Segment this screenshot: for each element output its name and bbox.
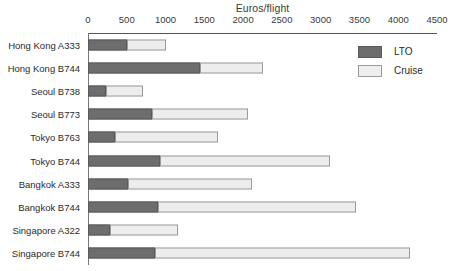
legend-swatch-lto-icon: [358, 46, 382, 58]
x-axis-tick-2500: 2500: [271, 14, 292, 25]
category-label: Seoul B773: [0, 109, 80, 120]
chart-title: Euros/flight: [88, 2, 437, 14]
x-axis-tick-3500: 3500: [349, 14, 370, 25]
legend-label-cruise: Cruise: [394, 65, 423, 76]
category-label: Tokyo B744: [0, 155, 80, 166]
category-label: Hong Kong A333: [0, 39, 80, 50]
category-label: Hong Kong B744: [0, 62, 80, 73]
category-label: Bangkok A333: [0, 178, 80, 189]
bar-segment-lto: [88, 225, 110, 236]
x-axis-tick-4500: 4500: [426, 14, 447, 25]
x-axis-tick-500: 500: [119, 14, 135, 25]
category-label: Tokyo B763: [0, 132, 80, 143]
bar-segment-cruise: [158, 202, 356, 213]
x-axis-tick-1500: 1500: [194, 14, 215, 25]
bar-segment-lto: [88, 202, 158, 213]
bar-segment-lto: [88, 86, 106, 97]
bar-segment-cruise: [155, 248, 409, 259]
category-label: Singapore A322: [0, 225, 80, 236]
bar-segment-cruise: [110, 225, 178, 236]
bar-row: [88, 248, 437, 259]
bar-row: [88, 86, 437, 97]
legend-label-lto: LTO: [394, 46, 413, 57]
chart-legend: LTO Cruise: [358, 42, 450, 80]
bar-row: [88, 132, 437, 143]
bar-row: [88, 178, 437, 189]
legend-swatch-cruise-icon: [358, 65, 382, 77]
bar-segment-lto: [88, 248, 155, 259]
bar-segment-lto: [88, 39, 127, 50]
y-axis-category-labels: Hong Kong A333Hong Kong B744Seoul B738Se…: [0, 33, 84, 265]
bar-segment-cruise: [200, 62, 263, 73]
x-axis-tick-4000: 4000: [388, 14, 409, 25]
x-axis-tick-1000: 1000: [155, 14, 176, 25]
bar-segment-lto: [88, 178, 128, 189]
legend-item-lto: LTO: [358, 42, 450, 61]
bar-row: [88, 109, 437, 120]
bar-segment-cruise: [152, 109, 247, 120]
bar-segment-lto: [88, 109, 152, 120]
bar-row: [88, 202, 437, 213]
bar-segment-cruise: [106, 86, 143, 97]
x-axis-tick-2000: 2000: [233, 14, 254, 25]
legend-item-cruise: Cruise: [358, 61, 450, 80]
bar-segment-cruise: [160, 155, 330, 166]
category-label: Seoul B738: [0, 86, 80, 97]
bar-chart: Euros/flight 050010001500200025003000350…: [0, 0, 453, 271]
bar-segment-lto: [88, 132, 115, 143]
bar-segment-cruise: [128, 178, 251, 189]
bar-segment-cruise: [115, 132, 218, 143]
bar-segment-lto: [88, 62, 200, 73]
x-axis-tick-0: 0: [85, 14, 90, 25]
x-axis-tick-3000: 3000: [310, 14, 331, 25]
category-label: Singapore B744: [0, 248, 80, 259]
category-label: Bangkok B744: [0, 202, 80, 213]
bar-segment-cruise: [127, 39, 166, 50]
bar-segment-lto: [88, 155, 160, 166]
bar-row: [88, 155, 437, 166]
bar-row: [88, 225, 437, 236]
